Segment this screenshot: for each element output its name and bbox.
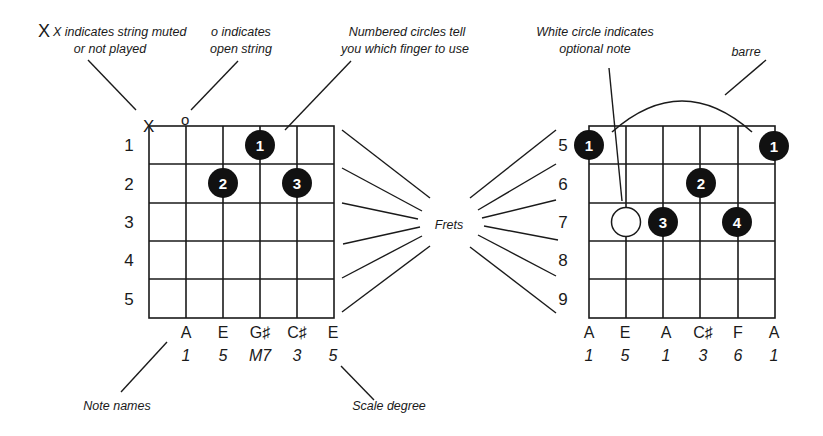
fret-number: 6	[558, 175, 567, 194]
left-fret-numbers: 1 2 3 4 5	[124, 136, 133, 309]
scale-degree: 1	[770, 347, 779, 364]
fret-number: 1	[124, 136, 133, 155]
fret-number: 4	[124, 251, 133, 270]
finger-label-line2: you which finger to use	[340, 42, 469, 56]
right-fret-numbers: 5 6 7 8 9	[558, 136, 567, 309]
optional-label-line1: White circle indicates	[536, 25, 653, 39]
note-name: A	[181, 324, 192, 341]
muted-label-line1: X indicates string muted	[52, 25, 187, 39]
left-fretboard-grid	[149, 126, 334, 318]
annotation-optional: White circle indicates optional note	[536, 25, 653, 56]
svg-text:3: 3	[293, 175, 301, 192]
open-label-line2: open string	[210, 42, 272, 56]
right-note-names: A E A C♯ F A	[584, 324, 780, 341]
svg-text:2: 2	[697, 175, 705, 192]
svg-text:3: 3	[659, 214, 667, 231]
left-note-names: A E G♯ C♯ E	[181, 324, 339, 341]
svg-text:1: 1	[256, 137, 264, 154]
scale-degree: 5	[219, 347, 228, 364]
svg-text:1: 1	[770, 138, 778, 155]
scale-degree: 5	[621, 347, 630, 364]
right-chord-chart: 5 6 7 8 9 1 1 2 3	[558, 101, 789, 364]
scale-degree: 1	[662, 347, 671, 364]
note-name: A	[661, 324, 672, 341]
svg-text:2: 2	[219, 175, 227, 192]
scale-degree: 6	[734, 347, 743, 364]
note-names-label: Note names	[83, 399, 150, 413]
finger-dot: 1	[574, 130, 604, 160]
scale-degree: M7	[249, 347, 272, 364]
finger-dot: 2	[686, 168, 716, 198]
fret-number: 2	[124, 175, 133, 194]
svg-text:4: 4	[733, 214, 742, 231]
note-name: G♯	[250, 324, 270, 341]
finger-dot: 3	[282, 168, 312, 198]
scale-degree: 1	[182, 347, 191, 364]
muted-string-marker: X	[143, 117, 154, 136]
annotation-fingers: Numbered circles tell you which finger t…	[340, 25, 469, 56]
note-name: E	[218, 324, 229, 341]
finger-dot: 3	[648, 207, 678, 237]
left-scale-degrees: 1 5 M7 3 5	[182, 347, 338, 364]
note-name: C♯	[693, 324, 713, 341]
scale-degree: 1	[585, 347, 594, 364]
fret-number: 3	[124, 213, 133, 232]
finger-dot: 4	[722, 207, 752, 237]
note-name: A	[769, 324, 780, 341]
fret-number: 5	[558, 136, 567, 155]
note-name: A	[584, 324, 595, 341]
scale-degree-label: Scale degree	[352, 399, 426, 413]
annotation-open: o indicates open string	[210, 25, 272, 56]
fret-number: 7	[558, 213, 567, 232]
annotation-muted: X X indicates string muted or not played	[38, 21, 187, 56]
svg-text:1: 1	[585, 137, 593, 154]
muted-x-glyph: X	[38, 21, 50, 41]
fret-number: 5	[124, 290, 133, 309]
finger-label-line1: Numbered circles tell	[349, 25, 467, 39]
note-name: E	[328, 324, 339, 341]
optional-note-circle	[612, 208, 641, 237]
finger-dot: 1	[759, 131, 789, 161]
finger-dot: 2	[208, 168, 238, 198]
chord-diagram-canvas: X X indicates string muted or not played…	[0, 0, 823, 436]
barre-label: barre	[731, 45, 760, 59]
open-label-line1: o indicates	[211, 25, 271, 39]
scale-degree: 5	[329, 347, 338, 364]
right-finger-dots: 1 1 2 3 4	[574, 130, 789, 237]
right-scale-degrees: 1 5 1 3 6 1	[585, 347, 779, 364]
finger-dot: 1	[245, 130, 275, 160]
fret-number: 9	[558, 290, 567, 309]
open-string-marker: o	[181, 111, 189, 128]
scale-degree: 3	[293, 347, 302, 364]
fret-number: 8	[558, 251, 567, 270]
scale-degree: 3	[699, 347, 708, 364]
muted-label-line2: or not played	[74, 42, 147, 56]
note-name: C♯	[287, 324, 307, 341]
note-name: F	[733, 324, 743, 341]
left-chord-chart: X o 1 2 3 4 5 1 2 3 A E G♯	[124, 111, 338, 364]
barre-arc	[612, 101, 752, 132]
note-name: E	[620, 324, 631, 341]
frets-label: Frets	[435, 218, 463, 232]
optional-label-line2: optional note	[559, 42, 631, 56]
